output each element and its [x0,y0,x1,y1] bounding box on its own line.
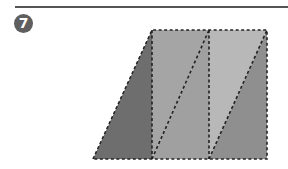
trapezoid-figure [0,0,288,169]
left-triangle [93,30,152,159]
